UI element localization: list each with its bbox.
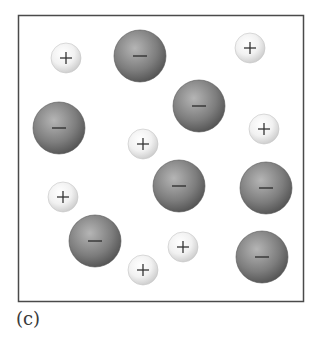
cation-ion bbox=[235, 33, 265, 63]
anion-ion bbox=[114, 30, 166, 82]
cation-ion bbox=[249, 114, 279, 144]
anion-ion bbox=[153, 160, 205, 212]
anion-ion bbox=[236, 231, 288, 283]
anion-ion bbox=[33, 102, 85, 154]
ion-lattice-diagram bbox=[0, 0, 320, 351]
anion-ion bbox=[173, 80, 225, 132]
anion-ion bbox=[240, 162, 292, 214]
cation-ion bbox=[168, 232, 198, 262]
cation-ion bbox=[128, 255, 158, 285]
ions-group bbox=[33, 30, 292, 285]
cation-ion bbox=[51, 43, 81, 73]
anion-ion bbox=[69, 215, 121, 267]
cation-ion bbox=[128, 129, 158, 159]
cation-ion bbox=[48, 182, 78, 212]
figure-caption: (c) bbox=[16, 308, 40, 329]
